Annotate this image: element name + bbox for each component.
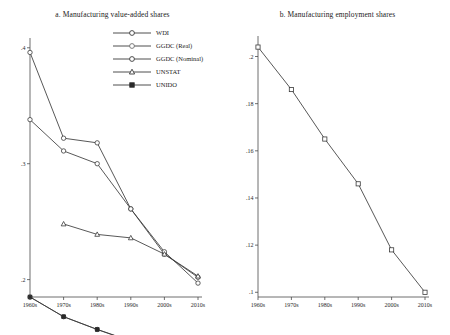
legend-item-ggdc-nominal[interactable]: GGDC (Nominal) [112, 52, 203, 65]
series-line-unido [30, 297, 198, 335]
data-point [95, 162, 99, 166]
data-point [28, 50, 32, 54]
legend-key-wdi [112, 27, 152, 39]
svg-text:1960s: 1960s [23, 302, 38, 308]
legend-label-ggdc-real: GGDC (Real) [156, 42, 192, 49]
svg-text:.12: .12 [246, 242, 254, 248]
svg-text:1970s: 1970s [284, 302, 299, 308]
legend-key-unstat [112, 66, 152, 78]
data-point [61, 149, 65, 153]
svg-text:.1: .1 [249, 289, 254, 295]
legend-label-unstat: UNSTAT [156, 68, 180, 75]
legend-item-wdi[interactable]: WDI [112, 26, 203, 39]
panel-employment: b. Manufacturing employment shares .1.12… [225, 0, 450, 335]
svg-text:.18: .18 [246, 101, 254, 107]
svg-text:1980s: 1980s [318, 302, 333, 308]
svg-text:.3: .3 [21, 161, 26, 167]
series-line-wdi [30, 297, 198, 335]
data-point [28, 295, 32, 299]
data-point [196, 281, 200, 285]
legend-label-wdi: WDI [156, 29, 169, 36]
svg-text:1980s: 1980s [90, 302, 105, 308]
svg-text:2010s: 2010s [191, 302, 206, 308]
svg-text:.4: .4 [21, 45, 26, 51]
series-line-unstat [64, 224, 198, 276]
data-point [61, 221, 66, 225]
series-line-manufacturing-employment-share [258, 47, 425, 292]
figure-root: a. Manufacturing value-added shares .2.3… [0, 0, 450, 335]
legend-item-ggdc-real[interactable]: GGDC (Real) [112, 39, 203, 52]
svg-text:1960s: 1960s [251, 302, 266, 308]
legend-key-ggdc-nominal [112, 53, 152, 65]
data-point [95, 141, 99, 145]
data-point [62, 315, 66, 319]
data-point [95, 328, 99, 332]
svg-text:2000s: 2000s [157, 302, 172, 308]
legend-key-ggdc-real [112, 40, 152, 52]
data-point [356, 182, 360, 186]
legend-label-ggdc-nominal: GGDC (Nominal) [156, 55, 203, 62]
svg-text:.14: .14 [246, 195, 254, 201]
svg-text:2010s: 2010s [418, 302, 433, 308]
data-point [323, 137, 327, 141]
panel-b-series-group [256, 45, 427, 294]
svg-text:1970s: 1970s [56, 302, 71, 308]
data-point [390, 248, 394, 252]
svg-text:1990s: 1990s [124, 302, 139, 308]
svg-text:2000s: 2000s [384, 302, 399, 308]
legend-item-unido[interactable]: UNIDO [112, 78, 203, 91]
svg-text:.2: .2 [21, 277, 26, 283]
data-point [61, 136, 65, 140]
panel-value-added: a. Manufacturing value-added shares .2.3… [0, 0, 225, 335]
data-point [28, 117, 32, 121]
legend-key-unido [112, 79, 152, 91]
svg-text:.16: .16 [246, 148, 254, 154]
legend-label-unido: UNIDO [156, 81, 177, 88]
svg-text:1990s: 1990s [351, 302, 366, 308]
svg-text:.2: .2 [249, 54, 254, 60]
legend: WDI GGDC (Real) GGDC (Nominal) [112, 26, 203, 91]
data-point [423, 290, 427, 294]
panel-b-plot: .1.12.14.16.18.21960s1970s1980s1990s2000… [225, 0, 450, 335]
panel-b-svg: .1.12.14.16.18.21960s1970s1980s1990s2000… [225, 0, 450, 335]
legend-item-unstat[interactable]: UNSTAT [112, 65, 203, 78]
data-point [129, 207, 133, 211]
data-point [256, 45, 260, 49]
panel-a-series-group [28, 50, 201, 335]
series-line-ggdc-nominal [30, 120, 198, 283]
data-point [289, 87, 293, 91]
